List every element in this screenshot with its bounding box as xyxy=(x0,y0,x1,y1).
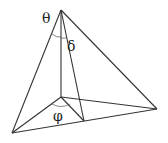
edge-apex-mid xyxy=(61,10,84,121)
theta-arc xyxy=(52,34,61,37)
theta-label: θ xyxy=(42,10,50,26)
pyramid-diagram: θ δ φ xyxy=(0,0,168,143)
edge-left-right xyxy=(12,109,157,133)
delta-label: δ xyxy=(67,38,75,54)
edge-apex-right xyxy=(61,10,157,109)
edge-foot-mid xyxy=(61,97,84,121)
phi-arc xyxy=(52,104,70,107)
phi-label: φ xyxy=(53,108,63,124)
edge-foot-right xyxy=(61,97,157,109)
